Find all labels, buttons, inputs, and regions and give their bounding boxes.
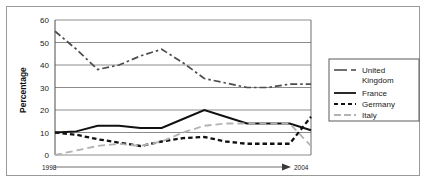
legend-label-germany: Germany: [362, 100, 395, 109]
y-tick-label-60: 60: [40, 16, 49, 25]
y-tick-label-0: 0: [45, 151, 50, 160]
legend-label-united-kingdom-line1: United: [362, 66, 385, 75]
y-tick-label-40: 40: [40, 61, 49, 70]
y-tick-label-20: 20: [40, 106, 49, 115]
line-chart: Percentage 60 50 40 30 20 10 0 1998 2004: [0, 0, 430, 194]
x-axis-arrow-head: [282, 164, 291, 171]
y-axis-title: Percentage: [18, 67, 28, 113]
series-line-united-kingdom: [55, 31, 311, 87]
chart-gridlines: [55, 20, 311, 155]
x-axis-start-year: 1998: [42, 164, 57, 171]
y-tick-label-10: 10: [40, 129, 49, 138]
legend-label-united-kingdom-line2: Kingdom: [362, 76, 394, 85]
y-tick-label-50: 50: [40, 39, 49, 48]
legend-label-italy: Italy: [362, 111, 377, 120]
chart-series-group: [55, 31, 311, 155]
chart-legend: United Kingdom France Germany Italy: [329, 59, 419, 121]
x-axis-end-year: 2004: [294, 164, 309, 171]
legend-label-france: France: [362, 89, 387, 98]
series-line-germany: [55, 117, 311, 146]
figure-container: Percentage 60 50 40 30 20 10 0 1998 2004: [0, 0, 430, 194]
y-tick-label-30: 30: [40, 84, 49, 93]
series-line-france: [55, 110, 311, 133]
